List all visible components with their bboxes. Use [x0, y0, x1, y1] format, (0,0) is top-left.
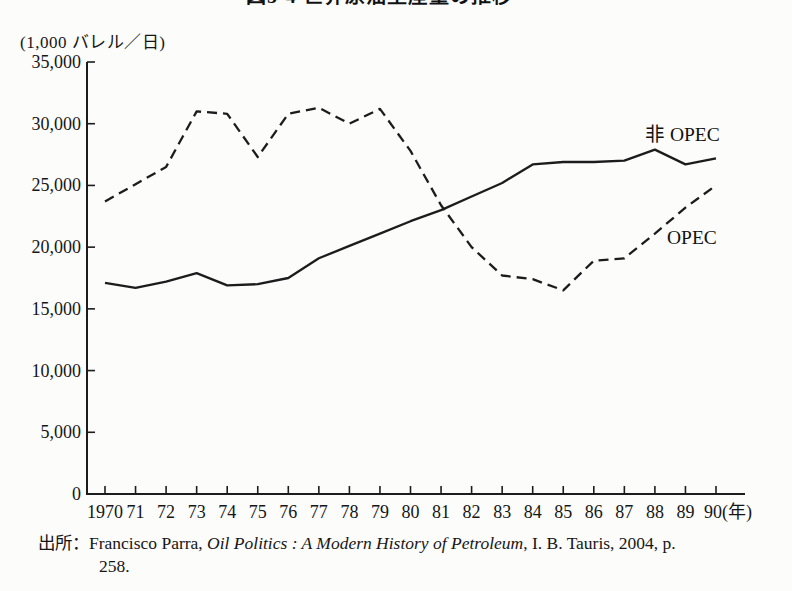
x-tick-label: 73 [188, 502, 206, 522]
y-tick-label: 25,000 [32, 175, 82, 195]
y-tick-label: 30,000 [32, 114, 82, 134]
scanned-book-page: 図5-4 世界原油生産量の推移 (1,000 バレル／日) 05,00010,0… [0, 0, 792, 591]
series-line-non-opec [105, 150, 716, 288]
source-book-title: Oil Politics : A Modern History of Petro… [207, 533, 523, 553]
x-tick-label: 71 [127, 502, 145, 522]
x-tick-label: 74 [218, 502, 236, 522]
y-tick-label: 35,000 [32, 52, 82, 72]
x-tick-label: 86 [585, 502, 603, 522]
source-line-1: 出所：Francisco Parra, Oil Politics : A Mod… [38, 529, 676, 554]
x-tick-label: 80 [402, 502, 420, 522]
x-tick-label: 90(年) [704, 502, 752, 523]
x-tick-label: 1970 [87, 502, 123, 522]
x-tick-label: 72 [157, 502, 175, 522]
source-author: Francisco Parra, [89, 533, 207, 553]
x-tick-label: 88 [646, 502, 664, 522]
y-tick-label: 0 [72, 484, 81, 504]
legend-label-non-opec: 非 OPEC [645, 124, 720, 145]
y-tick-label: 10,000 [32, 361, 82, 381]
legend-label-opec: OPEC [667, 227, 717, 248]
x-tick-label: 89 [676, 502, 694, 522]
x-tick-label: 79 [371, 502, 389, 522]
y-tick-label: 15,000 [32, 299, 82, 319]
x-tick-label: 75 [249, 502, 267, 522]
x-tick-label: 84 [524, 502, 542, 522]
x-tick-label: 87 [615, 502, 633, 522]
x-tick-label: 78 [340, 502, 358, 522]
y-tick-label: 20,000 [32, 237, 82, 257]
x-tick-label: 85 [554, 502, 572, 522]
source-line-2: 258. [99, 556, 130, 577]
x-tick-label: 83 [493, 502, 511, 522]
source-publisher: , I. B. Tauris, 2004, p. [523, 533, 676, 553]
x-tick-label: 76 [279, 502, 297, 522]
x-tick-label: 81 [432, 502, 450, 522]
x-tick-label: 77 [310, 502, 328, 522]
y-tick-label: 5,000 [41, 422, 82, 442]
source-prefix: 出所： [38, 533, 89, 553]
series-line-opec [105, 108, 716, 291]
line-chart: 05,00010,00015,00020,00025,00030,00035,0… [0, 0, 792, 525]
x-tick-label: 82 [463, 502, 481, 522]
